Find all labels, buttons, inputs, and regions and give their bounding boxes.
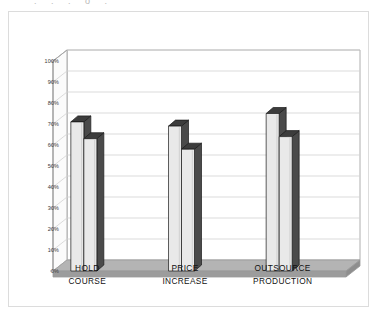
y-tick-label: 70%: [13, 121, 59, 127]
bar-2-2: [182, 143, 202, 271]
bar-1-2: [84, 133, 104, 271]
chart-frame: 100%90%80%70%60%50%40%30%20%10%0% HOLDCO…: [8, 11, 369, 307]
x-category-label: HOLDCOURSE: [32, 262, 142, 287]
x-category-label: OUTSOURCEPRODUCTION: [228, 262, 338, 287]
x-category-label-line: INCREASE: [130, 275, 240, 288]
y-tick-label: 100%: [13, 58, 59, 64]
x-category-label-line: PRODUCTION: [228, 275, 338, 288]
y-tick-label: 10%: [13, 247, 59, 253]
y-tick-label: 20%: [13, 226, 59, 232]
y-tick-label: 90%: [13, 79, 59, 85]
x-category-label: PRICEINCREASE: [130, 262, 240, 287]
y-tick-label: 60%: [13, 142, 59, 148]
bar-3-2: [279, 131, 299, 271]
plot-area: 100%90%80%70%60%50%40%30%20%10%0% HOLDCO…: [9, 12, 370, 308]
y-tick-label: 40%: [13, 184, 59, 190]
x-category-label-line: COURSE: [32, 275, 142, 288]
x-category-label-line: OUTSOURCE: [228, 262, 338, 275]
x-category-label-line: HOLD: [32, 262, 142, 275]
y-tick-label: 50%: [13, 163, 59, 169]
y-tick-label: 30%: [13, 205, 59, 211]
x-category-label-line: PRICE: [130, 262, 240, 275]
chart-figure: . . . o . 100%90%80%70%60%50%40%30%20%10…: [0, 0, 378, 319]
x-axis: HOLDCOURSEPRICEINCREASEOUTSOURCEPRODUCTI…: [9, 262, 370, 308]
y-tick-label: 80%: [13, 100, 59, 106]
clipped-caption-remnant: . . . o .: [0, 0, 378, 7]
